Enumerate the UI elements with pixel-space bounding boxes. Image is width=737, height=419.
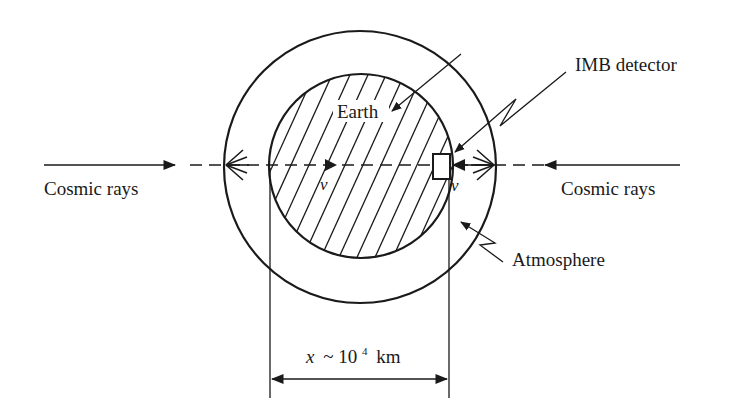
- detector-leader-line: [455, 72, 566, 152]
- cosmic-rays-right-label: Cosmic rays: [561, 178, 655, 199]
- neutrino-detection-diagram: Earth IMB detector Atmosphere Cosmic ray…: [0, 0, 737, 419]
- atmosphere-boundary: [224, 31, 496, 303]
- neutrino-left-label: ν: [320, 175, 328, 194]
- imb-detector-box: [433, 154, 450, 179]
- distance-label: x ~ 10 4 km: [305, 338, 401, 367]
- neutrino-right-label: ν: [451, 176, 459, 195]
- neutrino-arrowhead-left: [325, 159, 337, 171]
- atmosphere-label: Atmosphere: [512, 249, 605, 270]
- detector-label: IMB detector: [575, 54, 678, 75]
- earth-label: Earth: [337, 101, 379, 122]
- cosmic-rays-left-label: Cosmic rays: [44, 178, 138, 199]
- shower-left-icon: [226, 150, 249, 180]
